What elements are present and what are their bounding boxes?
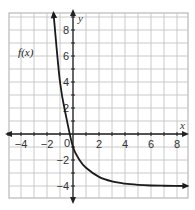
y-axis-label: y [77,12,83,24]
x-tick-label: 2 [96,138,102,150]
y-tick-label: 4 [63,76,69,88]
y-tick-label: −2 [56,154,69,166]
x-tick-label: 8 [174,138,180,150]
y-tick-label: 8 [63,24,69,36]
x-tick-label: −2 [41,138,54,150]
function-label: f(x) [18,46,34,59]
x-axis-label: x [179,119,185,131]
grid [9,13,188,198]
x-tick-label: 4 [122,138,128,150]
x-tick-label: −4 [15,138,28,150]
function-graph: −4−224680−4−22468 f(x) x y [0,0,195,210]
y-tick-label: 6 [63,50,69,62]
y-tick-label: −4 [56,180,69,192]
origin-label: 0 [64,137,70,149]
x-tick-label: 6 [148,138,154,150]
